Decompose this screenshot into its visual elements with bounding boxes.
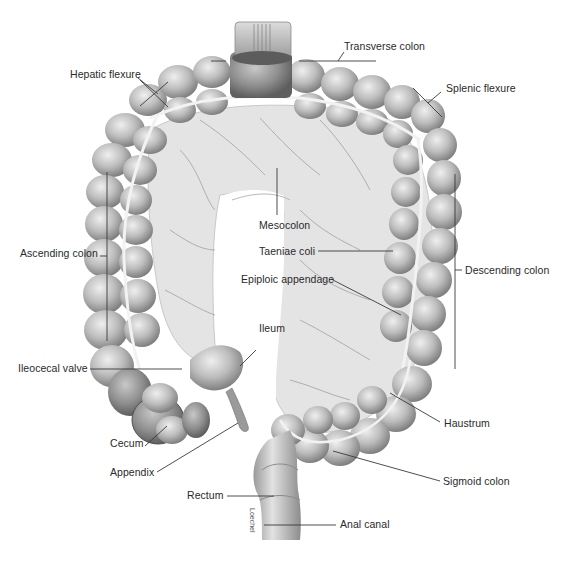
label-ileocecal-valve: Ileocecal valve — [18, 362, 88, 374]
label-mesocolon: Mesocolon — [259, 219, 310, 231]
label-epiploic-appendage: Epiploic appendage — [241, 273, 334, 285]
label-taeniae-coli: Taeniae coli — [259, 245, 315, 257]
illustrator-credit: Loechel — [249, 508, 256, 533]
label-hepatic-flexure: Hepatic flexure — [70, 68, 141, 80]
colon-anatomy-figure: Transverse colon Hepatic flexure Splenic… — [0, 0, 564, 561]
label-rectum: Rectum — [187, 489, 223, 501]
transverse-colon-cut-segment — [230, 22, 292, 98]
label-splenic-flexure: Splenic flexure — [446, 82, 516, 94]
label-anal-canal: Anal canal — [340, 518, 390, 530]
label-haustrum: Haustrum — [444, 417, 490, 429]
label-sigmoid-colon: Sigmoid colon — [443, 475, 510, 487]
label-ascending-colon: Ascending colon — [20, 247, 98, 259]
label-appendix: Appendix — [110, 466, 154, 478]
label-transverse-colon: Transverse colon — [344, 40, 425, 52]
label-ileum: Ileum — [259, 322, 285, 334]
label-descending-colon: Descending colon — [465, 264, 549, 276]
label-cecum: Cecum — [110, 437, 144, 449]
